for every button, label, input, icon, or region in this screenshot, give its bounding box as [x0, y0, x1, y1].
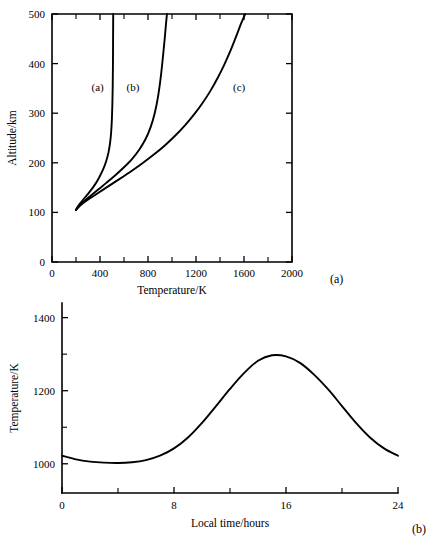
chart-panel-b: 081624100012001400Local time/hoursTemper… [0, 295, 440, 543]
y-tick-label: 500 [29, 8, 46, 20]
panel-tag-b: (b) [412, 522, 426, 536]
x-tick-label: 1200 [185, 267, 208, 279]
altitude-temperature-chart: 04008001200160020000100200300400500Tempe… [0, 0, 440, 295]
curve-c [76, 14, 245, 210]
x-tick-label: 1600 [233, 267, 256, 279]
x-tick-label: 0 [49, 267, 55, 279]
x-tick-label: 8 [171, 499, 177, 511]
curve-label-c: (c) [233, 81, 246, 94]
curve-diurnal-temperature [62, 355, 398, 463]
x-tick-label: 400 [92, 267, 109, 279]
y-axis-title: Temperature/K [8, 363, 21, 433]
y-tick-label: 1200 [33, 385, 56, 397]
x-tick-label: 2000 [281, 267, 304, 279]
y-tick-label: 1000 [33, 458, 56, 470]
panel-tag-a: (a) [330, 272, 343, 286]
x-tick-label: 16 [281, 499, 293, 511]
x-tick-label: 800 [140, 267, 157, 279]
x-axis-title: Local time/hours [191, 517, 270, 529]
y-tick-label: 1400 [33, 312, 56, 324]
curve-b [76, 14, 167, 210]
y-tick-label: 200 [29, 157, 46, 169]
x-tick-label: 24 [393, 499, 405, 511]
curve-label-b: (b) [127, 81, 140, 94]
curve-label-a: (a) [91, 81, 104, 94]
y-axis-title: Altitude/km [6, 110, 18, 166]
y-tick-label: 400 [29, 58, 46, 70]
x-tick-label: 0 [59, 499, 65, 511]
chart-panel-a: 04008001200160020000100200300400500Tempe… [0, 0, 440, 295]
y-tick-label: 100 [29, 206, 46, 218]
y-tick-label: 0 [40, 256, 46, 268]
diurnal-temperature-chart: 081624100012001400Local time/hoursTemper… [0, 295, 440, 543]
curve-a [76, 14, 113, 210]
y-tick-label: 300 [29, 107, 46, 119]
figure-container: 04008001200160020000100200300400500Tempe… [0, 0, 440, 543]
